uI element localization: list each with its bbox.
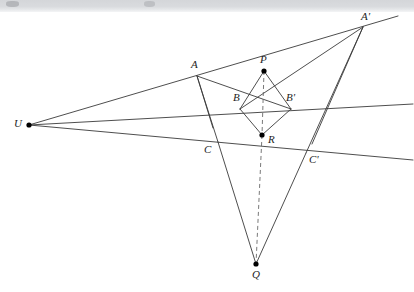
ray-U-through-A-to-Aprime	[29, 16, 398, 125]
point-markers-group	[26, 68, 266, 266]
point-label-cp: C'	[309, 154, 319, 165]
point-label-b: B	[233, 92, 240, 103]
point-label-ap: A'	[361, 11, 370, 22]
ray-U-through-B-Bprime	[29, 104, 413, 125]
dashed-R-to-Q	[256, 135, 262, 264]
edge-A-to-Bprime	[197, 76, 291, 109]
solid-lines-group	[29, 16, 413, 264]
point-marker-r	[259, 132, 264, 137]
point-label-u: U	[14, 118, 22, 129]
edge-P-to-B	[240, 71, 264, 109]
point-label-a: A	[191, 59, 198, 70]
edge-R-to-Bprime	[262, 109, 291, 135]
point-label-c: C	[204, 144, 211, 155]
dashed-P-to-R	[262, 71, 264, 135]
point-label-p: P	[260, 54, 267, 65]
edge-A-to-B-short	[197, 76, 213, 128]
point-label-q: Q	[252, 269, 260, 280]
point-label-bp: B'	[286, 92, 295, 103]
edge-C-to-Q	[218, 142, 256, 264]
point-marker-q	[253, 261, 258, 266]
ray-U-through-C-Cprime	[29, 125, 413, 160]
edge-Cprime-to-Q	[256, 153, 306, 264]
edge-Aprime-to-Cprime-low	[312, 27, 363, 144]
point-marker-p	[261, 68, 266, 73]
dashed-lines-group	[256, 71, 264, 264]
figure-canvas: UAA'BB'CC'PRQ	[0, 0, 414, 292]
point-label-r: R	[268, 134, 275, 145]
point-marker-u	[26, 122, 31, 127]
